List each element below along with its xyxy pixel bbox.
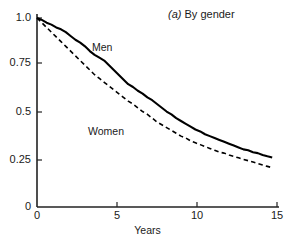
x-tick-label-5: 5: [107, 209, 127, 221]
panel-title: (a) By gender: [168, 8, 235, 20]
series-label-men: Men: [92, 41, 112, 53]
x-axis-title: Years: [0, 224, 295, 236]
panel-title-letter: (a): [168, 8, 181, 20]
y-tick-label-0-25: 0.25: [0, 153, 31, 165]
series-label-women: Women: [88, 125, 124, 137]
y-tick-label-0-75: 0.75: [0, 56, 31, 68]
series-line-men: [37, 18, 272, 157]
x-tick-label-15: 15: [267, 209, 287, 221]
series-line-women: [37, 18, 272, 168]
chart-figure: 1.0 0.75 0.5 0.25 0 0 5 10 15 Years (a) …: [0, 0, 295, 248]
x-tick-label-0: 0: [27, 209, 47, 221]
y-tick-label-0-5: 0.5: [0, 105, 31, 117]
y-tick-label-1-0: 1.0: [0, 11, 31, 23]
x-tick-label-10: 10: [187, 209, 207, 221]
panel-title-text: By gender: [181, 8, 234, 20]
